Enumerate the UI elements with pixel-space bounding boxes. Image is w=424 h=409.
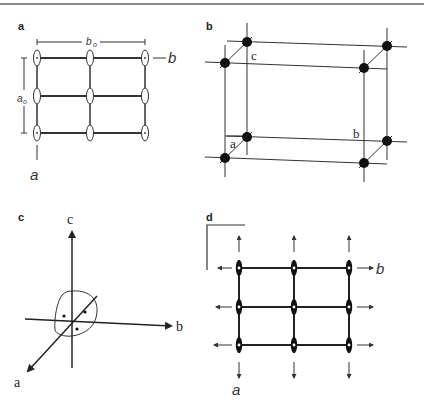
panel-b: b (205, 20, 407, 182)
dimension-b0: b o (37, 36, 145, 48)
panel-b-label: b (206, 20, 213, 32)
axis-a-arrow (28, 296, 97, 371)
axis-b-label: b (176, 319, 183, 334)
axis-b-label: b (376, 260, 384, 277)
axis-b-arrow (25, 319, 171, 326)
svg-text:b: b (86, 36, 92, 47)
dimension-a0: a o (17, 58, 27, 133)
axis-b-label: b (168, 49, 176, 66)
lattice-atoms (220, 37, 392, 168)
panel-c: c c b a (14, 211, 183, 390)
svg-text:o: o (23, 98, 27, 105)
edge-label-c: c (251, 48, 257, 63)
panel-a: a b o a o (17, 20, 176, 183)
edge-label-a: a (230, 136, 236, 151)
panel-a-label: a (18, 20, 25, 32)
axis-a-label: a (232, 381, 240, 398)
edge-label-b: b (353, 126, 360, 141)
panel-d: d (206, 211, 384, 398)
unit-cell-edges (205, 23, 407, 182)
panel-c-label: c (18, 211, 24, 223)
axis-c-label: c (67, 212, 73, 227)
crystal-lattice-figure: a b o a o (0, 0, 424, 409)
svg-text:o: o (93, 41, 97, 48)
axis-a-label: a (14, 375, 21, 390)
panel-d-label: d (206, 211, 213, 223)
axis-a-label: a (30, 166, 38, 183)
